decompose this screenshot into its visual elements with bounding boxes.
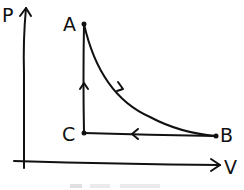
v-axis xyxy=(14,161,220,165)
point-b-label: B xyxy=(220,126,233,145)
p-axis-label: P xyxy=(2,6,13,25)
point-c-label: C xyxy=(62,125,75,144)
point-b xyxy=(214,134,219,139)
point-c xyxy=(82,131,87,136)
arrow-curve-icon xyxy=(117,82,123,91)
point-a-label: A xyxy=(63,15,76,34)
caption-cut-off xyxy=(70,184,170,188)
v-axis-label: V xyxy=(224,158,237,177)
point-a xyxy=(82,22,87,27)
path-a-to-b xyxy=(84,24,216,136)
p-axis xyxy=(24,8,26,74)
path-c-to-a xyxy=(84,24,85,133)
pv-diagram xyxy=(0,0,244,190)
